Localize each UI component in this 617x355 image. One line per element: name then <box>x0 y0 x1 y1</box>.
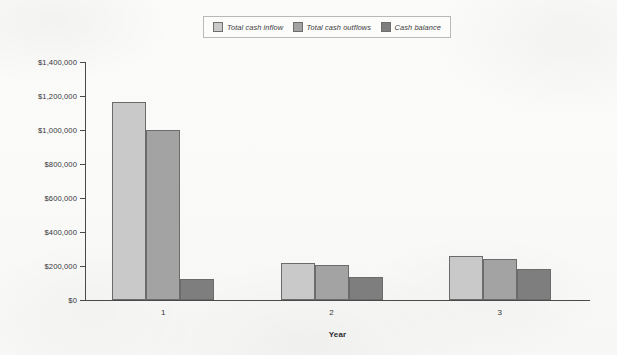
x-axis-tick-label: 2 <box>329 308 333 317</box>
y-axis-tick-label: $0 <box>68 296 77 305</box>
chart-legend: Total cash inflow Total cash outflows Ca… <box>203 16 451 38</box>
legend-item-cash-balance: Cash balance <box>381 22 441 32</box>
x-axis-tick-label: 3 <box>498 308 502 317</box>
y-axis-tick-label: $800,000 <box>45 160 77 169</box>
bar-3-series-0 <box>449 256 483 300</box>
bar-2-series-2 <box>349 277 383 300</box>
y-axis-tick <box>80 130 85 131</box>
y-axis-tick-label: $200,000 <box>45 262 77 271</box>
bar-1-series-2 <box>180 279 214 300</box>
legend-label-series-2: Cash balance <box>395 23 441 32</box>
y-axis-tick-label: $600,000 <box>45 194 77 203</box>
plot-area: $0$200,000$400,000$600,000$800,000$1,000… <box>85 62 590 300</box>
legend-item-total-cash-outflows: Total cash outflows <box>293 22 371 32</box>
bar-2-series-0 <box>281 263 315 300</box>
bar-3-series-2 <box>517 269 551 300</box>
y-axis-tick <box>80 198 85 199</box>
x-axis-tick-label: 1 <box>161 308 165 317</box>
legend-swatch-icon-series-0 <box>213 22 223 32</box>
y-axis-tick <box>80 96 85 97</box>
legend-swatch-icon-series-1 <box>293 22 303 32</box>
grouped-bar-chart: Total cash inflow Total cash outflows Ca… <box>0 0 617 355</box>
bar-3-series-1 <box>483 259 517 300</box>
y-axis-tick <box>80 164 85 165</box>
x-axis-title: Year <box>85 330 590 339</box>
y-axis-tick <box>80 266 85 267</box>
bar-1-series-1 <box>146 130 180 300</box>
legend-label-series-0: Total cash inflow <box>227 23 283 32</box>
bar-1-series-0 <box>112 102 146 300</box>
bar-2-series-1 <box>315 265 349 300</box>
y-axis-tick <box>80 232 85 233</box>
y-axis-tick <box>80 300 85 301</box>
legend-swatch-icon-series-2 <box>381 22 391 32</box>
legend-label-series-1: Total cash outflows <box>307 23 371 32</box>
y-axis-tick-label: $1,400,000 <box>38 58 77 67</box>
legend-item-total-cash-inflow: Total cash inflow <box>213 22 283 32</box>
x-axis-line <box>85 300 590 301</box>
y-axis-tick <box>80 62 85 63</box>
y-axis-tick-label: $1,000,000 <box>38 126 77 135</box>
y-axis-tick-label: $400,000 <box>45 228 77 237</box>
y-axis-line <box>85 62 86 300</box>
y-axis-tick-label: $1,200,000 <box>38 92 77 101</box>
